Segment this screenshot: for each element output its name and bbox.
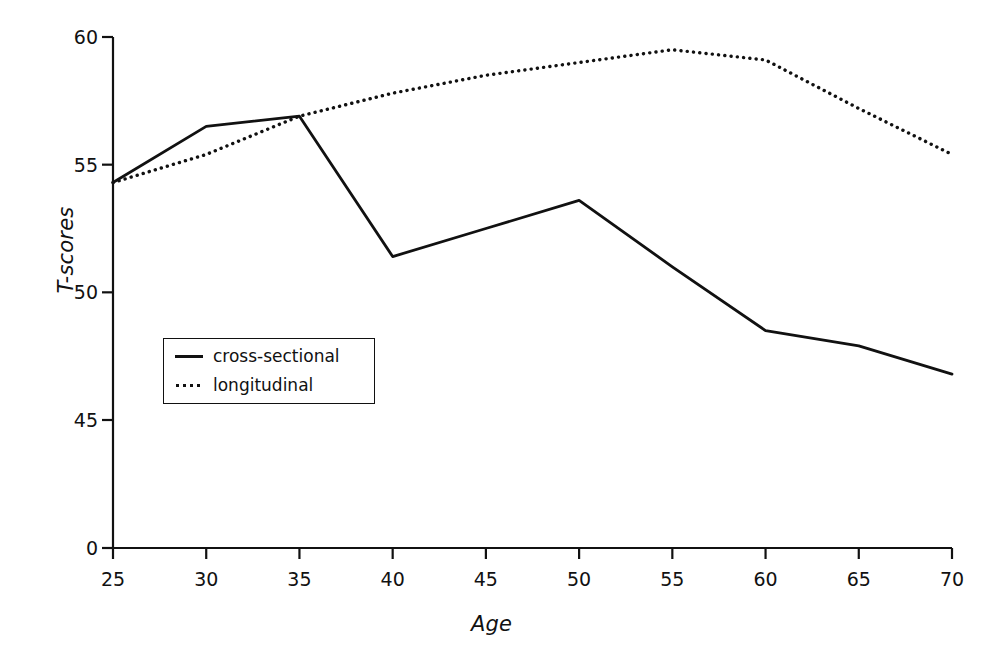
x-axis-ticks	[113, 548, 952, 559]
axes-group	[113, 37, 952, 548]
y-tick-label: 0	[40, 537, 98, 559]
x-tick-label: 45	[474, 568, 498, 590]
legend-dotted-line-icon	[174, 378, 204, 392]
line-chart-canvas	[0, 0, 983, 659]
series-line-cross-sectional	[113, 116, 952, 374]
legend-label-cross-sectional: cross-sectional	[213, 346, 340, 366]
x-axis-title: Age	[0, 612, 983, 636]
x-tick-label: 60	[753, 568, 777, 590]
legend-solid-line-icon	[174, 349, 204, 363]
x-tick-label: 70	[940, 568, 964, 590]
x-tick-label: 40	[381, 568, 405, 590]
chart-figure: 045505560 25303540455055606570 T-scores …	[0, 0, 983, 659]
chart-legend: cross-sectional longitudinal	[163, 338, 375, 404]
legend-label-longitudinal: longitudinal	[213, 375, 313, 395]
x-tick-label: 65	[847, 568, 871, 590]
y-axis-title: T-scores	[54, 190, 78, 310]
y-tick-label: 55	[40, 154, 98, 176]
x-tick-label: 25	[101, 568, 125, 590]
y-tick-label: 60	[40, 26, 98, 48]
legend-item-longitudinal: longitudinal	[174, 371, 313, 399]
series-line-longitudinal	[113, 50, 952, 183]
x-tick-label: 50	[567, 568, 591, 590]
y-tick-label: 45	[40, 409, 98, 431]
y-axis-ticks	[102, 37, 113, 548]
x-tick-label: 35	[287, 568, 311, 590]
x-tick-label: 55	[660, 568, 684, 590]
data-series-group	[113, 50, 952, 374]
x-tick-label: 30	[194, 568, 218, 590]
legend-item-cross-sectional: cross-sectional	[174, 342, 340, 370]
